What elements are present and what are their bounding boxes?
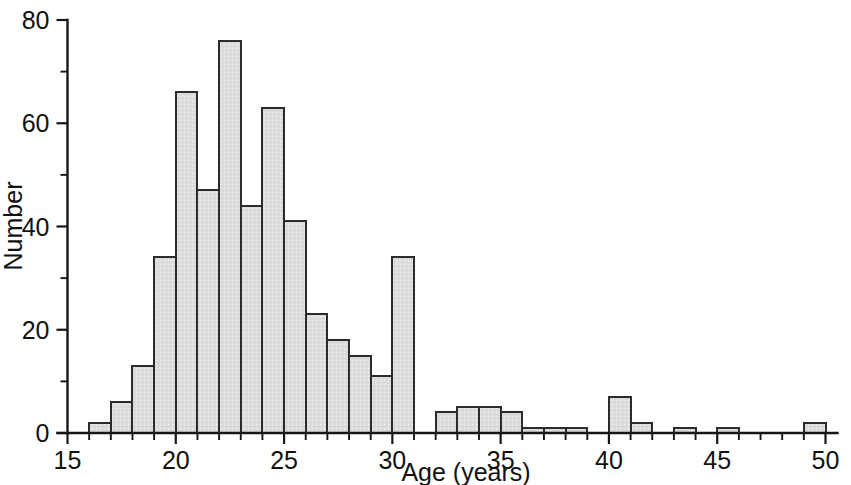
y-tick-label: 0	[36, 419, 50, 447]
histogram-bar	[111, 402, 133, 433]
plot-area: 1520253035404550 020406080 Age (years) N…	[0, 0, 851, 485]
y-tick-label: 60	[22, 109, 50, 137]
histogram-bar	[262, 108, 284, 433]
chart-svg: 1520253035404550 020406080 Age (years) N…	[0, 0, 851, 485]
y-axis-title: Number	[0, 182, 27, 271]
histogram-bar	[804, 423, 826, 433]
histogram-bar	[436, 412, 458, 433]
histogram-bar	[154, 257, 176, 433]
y-tick-label: 20	[22, 316, 50, 344]
histogram-bar	[176, 92, 198, 433]
histogram-bar	[241, 206, 263, 433]
x-axis	[58, 433, 838, 444]
histogram-bar	[349, 356, 371, 433]
x-tick-label: 25	[270, 446, 298, 474]
histogram-bar	[631, 423, 653, 433]
histogram-bar	[306, 314, 328, 433]
x-tick-label: 15	[54, 446, 82, 474]
x-tick-label: 45	[703, 446, 731, 474]
histogram-bar	[89, 423, 111, 433]
histogram-bar	[479, 407, 501, 433]
histogram-bar	[371, 376, 393, 433]
histogram-bar	[327, 340, 349, 433]
histogram-bar	[609, 397, 631, 433]
x-tick-label: 50	[812, 446, 840, 474]
bars-group	[89, 41, 825, 433]
histogram-bar	[197, 190, 219, 433]
histogram-bar	[219, 41, 241, 433]
y-tick-label: 80	[22, 6, 50, 34]
histogram-bar	[132, 366, 154, 433]
x-tick-label: 20	[162, 446, 190, 474]
x-tick-label: 40	[595, 446, 623, 474]
histogram-figure: 1520253035404550 020406080 Age (years) N…	[0, 0, 851, 485]
histogram-bar	[284, 221, 306, 433]
histogram-bar	[501, 412, 523, 433]
histogram-bar	[457, 407, 479, 433]
y-axis	[57, 20, 68, 433]
histogram-bar	[392, 257, 414, 433]
x-axis-title: Age (years)	[401, 458, 530, 485]
